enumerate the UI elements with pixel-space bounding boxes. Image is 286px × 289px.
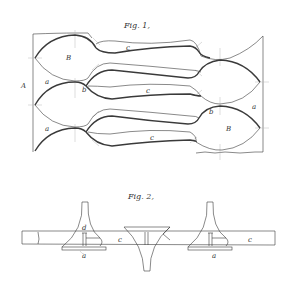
label-a-left: a (82, 252, 86, 260)
center-funnel-sides (124, 227, 170, 271)
label-c-2: c (146, 87, 150, 95)
right-base-plate (188, 247, 232, 250)
bowl-left-3-upper (35, 128, 86, 151)
label-b-right: b (209, 108, 214, 116)
figure-1-title: Fig. 1, (123, 21, 150, 30)
frame-top-right-curve (201, 36, 263, 60)
label-c-1: c (126, 44, 130, 52)
handle-1-inner (96, 46, 210, 58)
handle-3-inner (86, 86, 201, 99)
label-B-bottom: B (225, 125, 231, 133)
right-funnel-sides (188, 202, 226, 247)
left-funnel-sides (62, 202, 100, 247)
figure-1: Fig. 1, (20, 21, 269, 160)
bar-ends (22, 231, 275, 245)
label-c-3: c (150, 134, 154, 142)
label-B-top: B (65, 54, 71, 62)
label-c-right: c (248, 236, 252, 244)
label-a-right: a (212, 252, 216, 260)
label-c-left: c (118, 236, 122, 244)
patent-drawing: Fig. 1, (0, 0, 286, 289)
left-base-plate (62, 247, 106, 250)
bar-left-curve (38, 232, 39, 244)
bowl-left-2-upper (35, 82, 86, 105)
bowl-right-1-lower (201, 82, 260, 104)
label-A: A (20, 82, 26, 90)
label-a-left-2: a (45, 125, 49, 133)
figure-2-title: Fig. 2, (127, 192, 154, 201)
right-rivet (208, 233, 213, 246)
label-b-left: b (82, 86, 87, 94)
bowl-right-1-upper (199, 60, 260, 82)
label-a-left-1: a (45, 78, 49, 86)
left-clamp (86, 238, 102, 246)
handle-4-inner (86, 116, 199, 132)
bar-outline (22, 231, 275, 245)
label-a-right: a (252, 103, 256, 111)
figure-2: Fig. 2, d c c a a (22, 192, 275, 271)
handle-2-inner (86, 70, 199, 86)
center-rivet (145, 232, 148, 245)
bowl-left-2-lower (35, 105, 88, 127)
frame-bottom-edge (196, 152, 263, 153)
label-d: d (82, 224, 87, 232)
bowl-left-1-lower (35, 58, 88, 81)
